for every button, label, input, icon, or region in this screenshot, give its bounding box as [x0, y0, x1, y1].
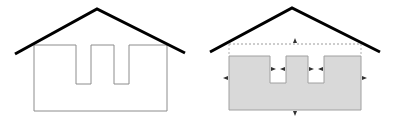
arrow-left-icon — [223, 76, 228, 80]
right-house — [210, 8, 380, 116]
arrow-up-icon — [293, 38, 297, 43]
arrow-left-icon — [280, 67, 285, 71]
right-house-roof — [210, 8, 380, 52]
arrow-right-icon — [271, 67, 276, 71]
arrow-left-icon — [318, 67, 323, 71]
house-diagrams — [0, 0, 395, 123]
left-house-roof — [15, 9, 185, 54]
diagram-canvas — [0, 0, 395, 123]
arrow-right-icon — [309, 67, 314, 71]
right-house-body-fill — [229, 56, 361, 110]
arrow-right-icon — [362, 76, 367, 80]
left-house-body-outline — [34, 45, 167, 111]
arrow-down-icon — [293, 111, 297, 116]
left-house — [15, 9, 185, 111]
